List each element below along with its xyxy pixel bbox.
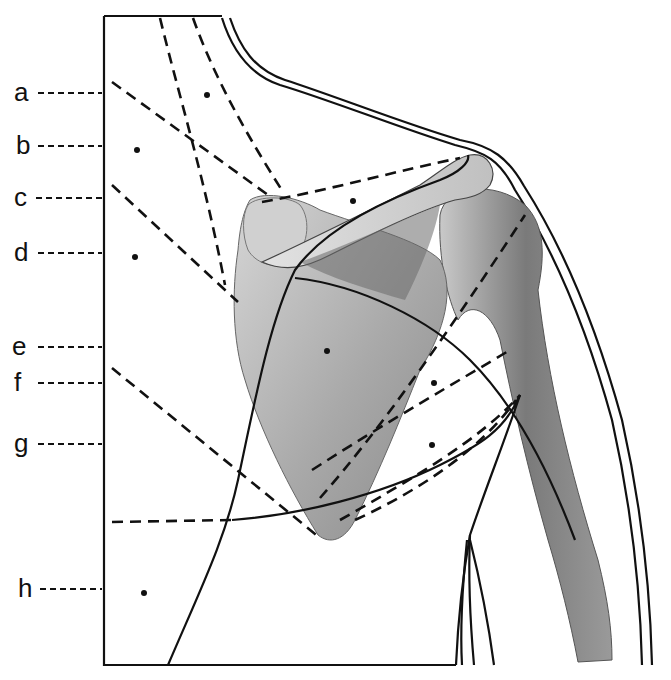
shoulder-anatomy-diagram: a b c d e f g h xyxy=(0,0,671,680)
label-g: g xyxy=(14,428,102,458)
label-e: e xyxy=(12,331,102,361)
label-h: h xyxy=(18,573,102,603)
label-f-text: f xyxy=(14,367,22,397)
label-a-text: a xyxy=(14,77,29,107)
label-a: a xyxy=(14,77,102,107)
label-c: c xyxy=(14,182,102,212)
label-d-text: d xyxy=(14,237,28,267)
label-b-text: b xyxy=(16,130,30,160)
label-e-text: e xyxy=(12,331,26,361)
label-g-text: g xyxy=(14,428,28,458)
humerus xyxy=(440,189,612,662)
region-labels: a b c d e f g h xyxy=(12,77,102,603)
label-h-text: h xyxy=(18,573,32,603)
label-d: d xyxy=(14,237,102,267)
label-c-text: c xyxy=(14,182,27,212)
label-f: f xyxy=(14,367,102,397)
label-b: b xyxy=(16,130,102,160)
